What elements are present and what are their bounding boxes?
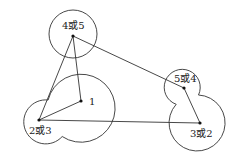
label-1: 1 (89, 96, 95, 107)
point-3or2 (198, 121, 201, 124)
circle-4or5 (49, 10, 97, 58)
point-1 (79, 99, 82, 102)
edge-23-32 (39, 120, 200, 123)
edge-45-54 (73, 36, 184, 88)
point-4or5 (71, 34, 74, 37)
label-2or3: 2或3 (29, 125, 52, 136)
point-2or3 (37, 118, 40, 121)
diagram-canvas: 4或5 1 2或3 5或4 3或2 (0, 0, 244, 164)
label-4or5: 4或5 (62, 20, 85, 31)
edge-45-1 (73, 36, 81, 101)
point-5or4 (182, 86, 185, 89)
edge-54-32 (184, 88, 200, 123)
label-3or2: 3或2 (190, 128, 213, 139)
label-5or4: 5或4 (174, 73, 197, 84)
